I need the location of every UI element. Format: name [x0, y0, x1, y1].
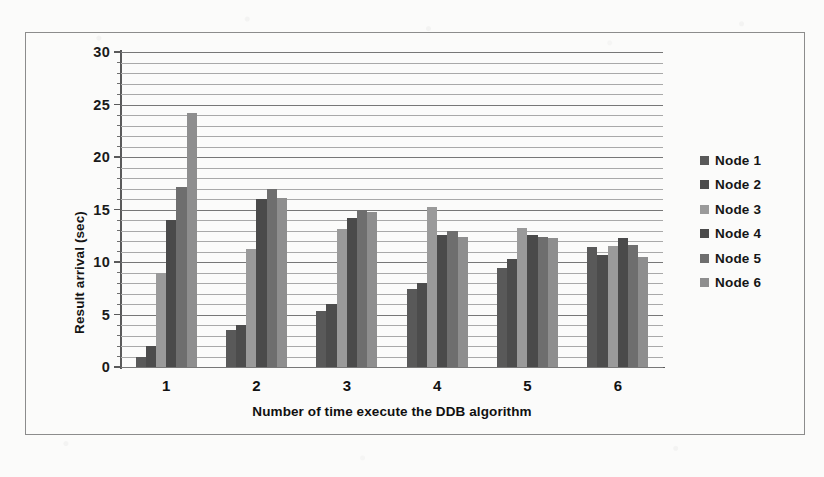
gridline-minor: [121, 283, 663, 284]
x-axis-tick-label: 4: [433, 377, 441, 394]
gridline-minor: [121, 84, 663, 85]
gridline-minor: [121, 94, 663, 95]
bar: [527, 235, 537, 367]
gridline-minor: [121, 346, 663, 347]
y-axis-tick-label: 10: [74, 254, 110, 270]
legend-item-node-5[interactable]: Node 5: [700, 246, 761, 271]
bar: [347, 218, 357, 367]
gridline-major: [121, 52, 663, 53]
bar: [337, 229, 347, 367]
bar-group: [136, 52, 197, 367]
bar: [267, 189, 277, 368]
bar: [417, 283, 427, 367]
bar: [458, 237, 468, 367]
bar: [437, 235, 447, 367]
gridline-minor: [121, 294, 663, 295]
gridline-minor: [121, 63, 663, 64]
y-axis-tick-label: 15: [74, 202, 110, 218]
bar: [226, 330, 236, 367]
bar: [497, 268, 507, 367]
legend-item-label: Node 1: [715, 153, 761, 168]
bar-group: [226, 52, 287, 367]
legend-swatch-icon: [700, 278, 709, 287]
gridline-major: [121, 157, 663, 158]
legend-swatch-icon: [700, 180, 709, 189]
x-axis-tick-label: 6: [614, 377, 622, 394]
bar: [316, 311, 326, 367]
bar-group: [407, 52, 468, 367]
y-axis-tick-label: 30: [74, 44, 110, 60]
gridline-minor: [121, 115, 663, 116]
gridline-minor: [121, 252, 663, 253]
bar: [187, 113, 197, 367]
x-axis-tick-label: 2: [252, 377, 260, 394]
gridline-minor: [121, 147, 663, 148]
y-axis-tick-labels: 051015202530: [70, 0, 110, 477]
x-axis-title: Number of time execute the DDB algorithm: [121, 404, 663, 419]
bar: [146, 346, 156, 367]
legend-item-node-1[interactable]: Node 1: [700, 148, 761, 173]
bar: [166, 220, 176, 367]
bar: [367, 212, 377, 367]
bar: [136, 357, 146, 368]
bar: [236, 325, 246, 367]
gridline-minor: [121, 273, 663, 274]
gridline-minor: [121, 126, 663, 127]
gridline-minor: [121, 199, 663, 200]
legend-swatch-icon: [700, 205, 709, 214]
gridline-minor: [121, 178, 663, 179]
gridline-minor: [121, 241, 663, 242]
bar: [156, 273, 166, 368]
gridline-minor: [121, 73, 663, 74]
bar: [608, 246, 618, 367]
gridline-minor: [121, 357, 663, 358]
gridline-major: [121, 315, 663, 316]
x-axis-tick-label: 5: [523, 377, 531, 394]
bar: [618, 238, 628, 367]
bar: [597, 255, 607, 367]
bar: [517, 228, 527, 367]
bar: [357, 210, 367, 368]
gridline-minor: [121, 325, 663, 326]
bar: [407, 289, 417, 367]
bar: [427, 207, 437, 367]
legend-item-label: Node 4: [715, 226, 761, 241]
gridline-minor: [121, 189, 663, 190]
x-axis-tick-label: 3: [343, 377, 351, 394]
gridline-major: [121, 262, 663, 263]
gridline-minor: [121, 304, 663, 305]
bar-group: [497, 52, 558, 367]
bar-group: [587, 52, 648, 367]
bar: [638, 257, 648, 367]
y-axis-tick-label: 20: [74, 149, 110, 165]
legend-item-label: Node 6: [715, 275, 761, 290]
bar: [587, 247, 597, 367]
y-axis-title-container: Result arrival (sec): [46, 115, 66, 305]
legend-item-node-2[interactable]: Node 2: [700, 173, 761, 198]
legend-swatch-icon: [700, 254, 709, 263]
gridline-major: [121, 367, 663, 368]
bar-group: [316, 52, 377, 367]
gridline-minor: [121, 168, 663, 169]
bar: [176, 187, 186, 367]
chart-legend: Node 1Node 2Node 3Node 4Node 5Node 6: [700, 148, 761, 295]
legend-item-node-3[interactable]: Node 3: [700, 197, 761, 222]
gridline-minor: [121, 220, 663, 221]
legend-item-label: Node 3: [715, 202, 761, 217]
bar: [548, 238, 558, 367]
gridlines: [121, 52, 663, 367]
y-axis-tick-label: 0: [74, 359, 110, 375]
legend-item-node-4[interactable]: Node 4: [700, 222, 761, 247]
gridline-minor: [121, 231, 663, 232]
plot-area: [121, 52, 663, 367]
gridline-major: [121, 210, 663, 211]
y-axis-tick-label: 25: [74, 97, 110, 113]
legend-swatch-icon: [700, 229, 709, 238]
legend-item-label: Node 2: [715, 177, 761, 192]
legend-swatch-icon: [700, 156, 709, 165]
legend-item-node-6[interactable]: Node 6: [700, 271, 761, 296]
gridline-major: [121, 105, 663, 106]
bar: [246, 249, 256, 367]
bar: [256, 199, 266, 367]
gridline-minor: [121, 136, 663, 137]
